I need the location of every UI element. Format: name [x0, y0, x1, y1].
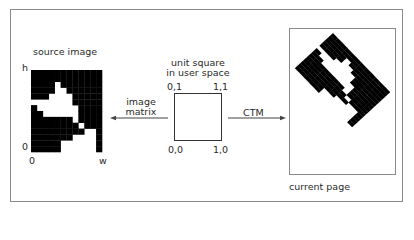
unit-square-title-line2: in user space [160, 67, 236, 78]
bitmap-pixel [72, 123, 78, 129]
bitmap-pixel [49, 117, 55, 123]
bitmap-pixel [43, 76, 49, 82]
bitmap-pixel [90, 76, 96, 82]
bitmap-pixel [78, 105, 84, 111]
bitmap-pixel [90, 82, 96, 88]
bitmap-pixel [49, 129, 55, 135]
bitmap-pixel [84, 111, 90, 117]
image-matrix-label-line2: matrix [118, 106, 164, 117]
bitmap-pixel [72, 88, 78, 94]
bitmap-pixel [43, 117, 49, 123]
bitmap-pixel [43, 146, 49, 152]
bitmap-pixel [84, 88, 90, 94]
bitmap-pixel [90, 70, 96, 76]
bitmap-pixel [55, 76, 61, 82]
ctm-label: CTM [243, 107, 264, 118]
bitmap-pixel [61, 70, 67, 76]
bitmap-pixel [37, 140, 43, 146]
bitmap-pixel [84, 123, 90, 129]
bitmap-pixel [37, 88, 43, 94]
bitmap-pixel [78, 70, 84, 76]
bitmap-pixel [96, 129, 102, 135]
bitmap-pixel [37, 111, 43, 117]
bitmap-pixel [61, 76, 67, 82]
source-image-bitmap [31, 70, 102, 152]
bitmap-pixel [31, 105, 37, 111]
bitmap-pixel [84, 105, 90, 111]
bitmap-pixel [43, 134, 49, 140]
bitmap-pixel [90, 105, 96, 111]
bitmap-pixel [37, 123, 43, 129]
bitmap-pixel [96, 123, 102, 129]
bitmap-pixel [67, 117, 73, 123]
bitmap-pixel [78, 88, 84, 94]
bitmap-pixel [31, 123, 37, 129]
bitmap-pixel [67, 88, 73, 94]
bitmap-pixel [37, 129, 43, 135]
corner-label-0-0: 0,0 [168, 144, 183, 155]
bitmap-pixel [72, 93, 78, 99]
bitmap-pixel [43, 88, 49, 94]
unit-square [175, 94, 222, 141]
bitmap-pixel [78, 99, 84, 105]
bitmap-pixel [49, 146, 55, 152]
bitmap-pixel [49, 76, 55, 82]
bitmap-pixel [96, 134, 102, 140]
bitmap-pixel [31, 93, 37, 99]
bitmap-pixel [31, 134, 37, 140]
bitmap-pixel [78, 76, 84, 82]
bitmap-pixel [78, 93, 84, 99]
bitmap-pixel [37, 76, 43, 82]
bitmap-pixel [72, 99, 78, 105]
bitmap-pixel [61, 134, 67, 140]
bitmap-pixel [72, 70, 78, 76]
bitmap-pixel [72, 129, 78, 135]
bitmap-pixel [84, 82, 90, 88]
corner-label-1-0: 1,0 [213, 144, 228, 155]
bitmap-pixel [43, 123, 49, 129]
bitmap-pixel [72, 82, 78, 88]
bitmap-pixel [67, 70, 73, 76]
bitmap-pixel [31, 76, 37, 82]
bitmap-pixel [31, 111, 37, 117]
bitmap-pixel [90, 88, 96, 94]
bitmap-pixel [78, 129, 84, 135]
bitmap-pixel [84, 93, 90, 99]
bitmap-pixel [67, 134, 73, 140]
corner-label-0-1: 0,1 [167, 81, 182, 92]
bitmap-pixel [43, 70, 49, 76]
bitmap-pixel [55, 70, 61, 76]
bitmap-pixel [61, 117, 67, 123]
bitmap-pixel [37, 134, 43, 140]
bitmap-pixel [49, 70, 55, 76]
bitmap-pixel [90, 111, 96, 117]
bitmap-pixel [43, 140, 49, 146]
bitmap-pixel [43, 129, 49, 135]
bitmap-pixel [49, 134, 55, 140]
bitmap-pixel [67, 82, 73, 88]
bitmap-pixel [37, 146, 43, 152]
bitmap-pixel [96, 82, 102, 88]
bitmap-pixel [49, 82, 55, 88]
bitmap-pixel [49, 88, 55, 94]
bitmap-pixel [90, 93, 96, 99]
bitmap-pixel [90, 117, 96, 123]
bitmap-pixel [96, 117, 102, 123]
bitmap-pixel [55, 134, 61, 140]
bitmap-pixel [31, 88, 37, 94]
bitmap-pixel [37, 82, 43, 88]
bitmap-pixel [78, 111, 84, 117]
current-page-caption: current page [289, 181, 350, 192]
bitmap-pixel [31, 70, 37, 76]
bitmap-pixel [90, 99, 96, 105]
bitmap-pixel [55, 140, 61, 146]
bitmap-pixel [43, 82, 49, 88]
bitmap-pixel [96, 93, 102, 99]
bitmap-pixel [67, 76, 73, 82]
bitmap-pixel [55, 146, 61, 152]
bitmap-pixel [55, 123, 61, 129]
bitmap-pixel [49, 140, 55, 146]
bitmap-pixel [96, 76, 102, 82]
corner-label-1-1: 1,1 [213, 81, 228, 92]
bitmap-pixel [67, 123, 73, 129]
